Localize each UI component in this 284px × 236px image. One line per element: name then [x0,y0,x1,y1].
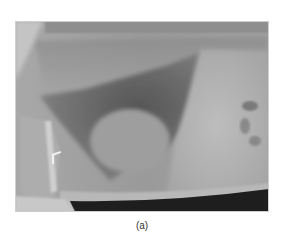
radiograph-figure [15,21,269,212]
gas-pocket [240,118,250,134]
cardiac-silhouette [90,109,170,173]
dorsal-band [45,21,269,33]
gas-pocket [242,101,258,111]
figure-caption: (a) [0,220,284,231]
gas-pocket [249,136,261,146]
radiograph-image [15,21,269,212]
